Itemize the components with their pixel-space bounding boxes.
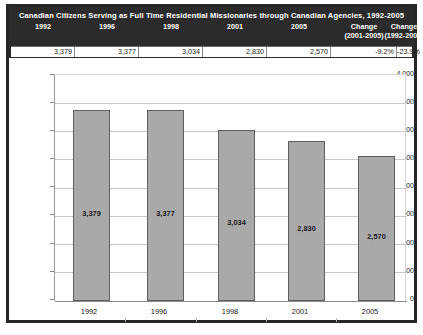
table-cell-1992: 3,379 [11, 47, 75, 57]
x-axis-tick-label-1998: 1998 [195, 307, 265, 316]
x-axis-separator [336, 318, 337, 322]
header-line-2: 2005 [267, 22, 331, 31]
gridline-3500 [55, 103, 407, 104]
x-axis-tick-label-1996: 1996 [124, 307, 194, 316]
table-cell-1998: 3,034 [139, 47, 203, 57]
table-cell-2001: 2,830 [203, 47, 267, 57]
table-header-cell-1998: 1998 [139, 22, 203, 31]
table-header-row: 1992 1996 1998 2001 2005 [11, 22, 412, 46]
x-axis-separator [266, 318, 267, 322]
bar-1992[interactable] [73, 110, 110, 301]
table-header-cell-2001: 2001 [203, 22, 267, 31]
table-cell-change-1992-2005: -23.9% [397, 47, 412, 57]
x-axis-tick-label-2005: 2005 [335, 307, 405, 316]
x-axis-separator [125, 318, 126, 322]
x-axis-tick-label-2001: 2001 [265, 307, 335, 316]
report-frame: Canadian Citizens Serving as Full Time R… [6, 4, 417, 323]
table-header-cell-1996: 1996 [75, 22, 139, 31]
bar-value-label-2005: 2,570 [354, 232, 399, 241]
x-axis-separator [196, 318, 197, 322]
header-line-2: 1992 [11, 22, 75, 31]
screenshot-root: Canadian Citizens Serving as Full Time R… [0, 0, 423, 335]
summary-table: Canadian Citizens Serving as Full Time R… [9, 7, 414, 57]
x-axis-tick-label-1992: 1992 [54, 307, 124, 316]
bar-2005[interactable] [358, 156, 395, 301]
table-data-row: 3,379 3,377 3,034 2,830 2,570 -9.2% -23.… [11, 46, 412, 56]
header-line-2: 1998 [139, 22, 203, 31]
bar-1998[interactable] [218, 130, 255, 301]
header-line-2: 1996 [75, 22, 139, 31]
table-cell-1996: 3,377 [75, 47, 139, 57]
bar-chart: 4,000 3,500 3,000 2,500 2,000 1,500 1,00… [9, 58, 414, 320]
bar-value-label-1998: 3,034 [214, 218, 259, 227]
gridline-0 [55, 301, 407, 302]
table-header-cell-2005: 2005 [267, 22, 331, 31]
bar-value-label-1996: 3,377 [143, 209, 188, 218]
table-cell-2005: 2,570 [267, 47, 331, 57]
bar-value-label-2001: 2,830 [284, 224, 329, 233]
header-line-1: Change [364, 22, 423, 31]
header-line-2: 2001 [203, 22, 267, 31]
header-line-2: (1992-2005) [364, 31, 423, 40]
bar-1996[interactable] [147, 110, 184, 301]
bar-2001[interactable] [288, 141, 325, 301]
table-header-cell-1992: 1992 [11, 22, 75, 31]
table-title: Canadian Citizens Serving as Full Time R… [9, 11, 414, 20]
plot-area: 3,379 3,377 3,034 2,830 2,570 [54, 74, 406, 301]
bar-value-label-1992: 3,379 [69, 209, 114, 218]
table-cell-change-2001-2005: -9.2% [331, 47, 397, 57]
